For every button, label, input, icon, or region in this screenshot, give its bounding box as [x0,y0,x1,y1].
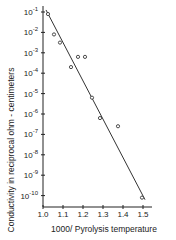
data-point [76,55,79,58]
data-point [140,196,143,199]
x-axis-label: 1000/ Pyrolysis temperature [51,224,157,234]
data-point [58,41,61,44]
data-point [98,116,101,119]
data-point [116,125,119,128]
y-tick-label: 10-7 [24,128,39,139]
y-tick-label: 10-8 [24,149,39,160]
conductivity-chart: 10-110-210-310-410-510-610-710-810-910-1… [0,0,176,240]
fit-line [46,10,145,200]
data-point [46,12,49,15]
data-point [69,65,72,68]
y-tick-label: 10-6 [24,108,39,119]
y-axis-label: Conductivity in reciprocal ohm - centime… [6,68,16,233]
x-tick-label: 1.4 [117,210,129,219]
data-point [90,96,93,99]
data-points [46,12,143,199]
y-tick-label: 10-4 [24,67,39,78]
data-point [83,55,86,58]
y-tick-label: 10-2 [24,26,39,37]
x-tick-label: 1.5 [137,210,149,219]
x-tick-label: 1.2 [77,210,89,219]
x-tick-label: 1.1 [57,210,69,219]
x-tick-label: 1.0 [37,210,49,219]
y-tick-label: 10-1 [24,6,39,17]
y-tick-label: 10-10 [20,190,38,201]
x-tick-label: 1.3 [97,210,109,219]
y-tick-label: 10-9 [24,169,39,180]
y-axis-ticks: 10-110-210-310-410-510-610-710-810-910-1… [20,6,45,201]
y-tick-label: 10-3 [24,47,39,58]
y-tick-label: 10-5 [24,88,39,99]
data-point [52,33,55,36]
